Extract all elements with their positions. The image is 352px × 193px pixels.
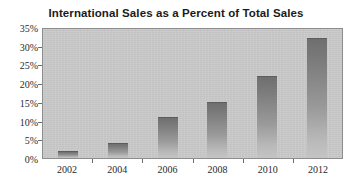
y-axis-tick-label: 35% [20, 23, 38, 34]
bar-slot [292, 29, 342, 158]
x-axis-tick-marks [42, 159, 343, 163]
bar-series [43, 29, 342, 158]
y-axis-tick-label: 10% [20, 116, 38, 127]
x-axis-tick-mark [92, 159, 93, 163]
x-axis-tick-label: 2010 [243, 164, 293, 175]
bar-2010[interactable] [257, 76, 277, 158]
x-axis: 200220042006200820102012 [42, 164, 343, 175]
bar-2006[interactable] [158, 117, 178, 158]
bar-slot [93, 29, 143, 158]
bar-2012[interactable] [307, 38, 327, 158]
x-axis-tick-label: 2008 [193, 164, 243, 175]
x-axis-tick-mark [142, 159, 143, 163]
bar-2002[interactable] [58, 151, 78, 158]
bar-slot [192, 29, 242, 158]
y-axis-tick-label: 20% [20, 79, 38, 90]
bar-slot [242, 29, 292, 158]
y-axis-tick-label: 25% [20, 60, 38, 71]
y-axis-tick-label: 5% [25, 135, 38, 146]
x-axis-tick-mark [293, 159, 294, 163]
x-axis-tick-mark [243, 159, 244, 163]
bar-slot [143, 29, 193, 158]
chart-title: International Sales as a Percent of Tota… [0, 7, 352, 19]
y-axis: 35%30%25%20%15%10%5%0% [0, 28, 38, 159]
x-axis-tick-mark [193, 159, 194, 163]
y-axis-tick-label: 30% [20, 41, 38, 52]
y-axis-tick-label: 15% [20, 97, 38, 108]
plot-area [42, 28, 343, 159]
x-axis-tick-label: 2004 [92, 164, 142, 175]
y-axis-tick-label: 0% [25, 154, 38, 165]
bar-chart: International Sales as a Percent of Tota… [0, 0, 352, 193]
bar-2008[interactable] [207, 102, 227, 158]
bar-2004[interactable] [108, 143, 128, 158]
x-axis-tick-label: 2012 [293, 164, 343, 175]
x-axis-tick-label: 2002 [42, 164, 92, 175]
bar-slot [43, 29, 93, 158]
x-axis-tick-label: 2006 [142, 164, 192, 175]
